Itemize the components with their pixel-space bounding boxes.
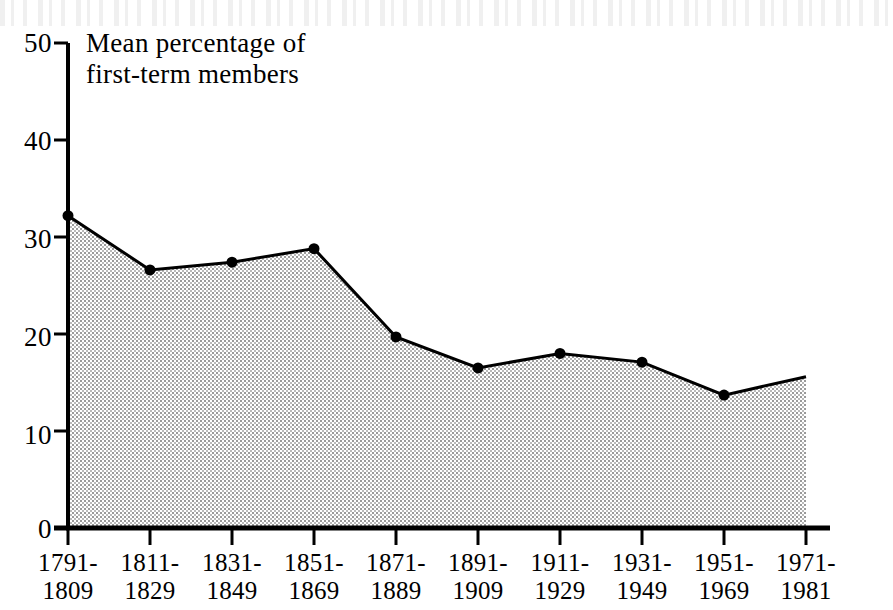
- chart-figure: Mean percentage of first-term members 50…: [0, 0, 893, 610]
- data-point-marker: [145, 264, 156, 275]
- data-point-marker: [309, 243, 320, 254]
- data-point-marker: [227, 257, 238, 268]
- data-point-marker: [719, 390, 730, 401]
- data-point-marker: [555, 348, 566, 359]
- plot-area: [0, 0, 893, 610]
- x-axis-ticks: [68, 528, 806, 545]
- data-point-marker: [473, 362, 484, 373]
- data-point-marker: [637, 357, 648, 368]
- data-point-marker: [391, 331, 402, 342]
- area-fill: [68, 216, 806, 528]
- y-axis-ticks: [54, 43, 68, 528]
